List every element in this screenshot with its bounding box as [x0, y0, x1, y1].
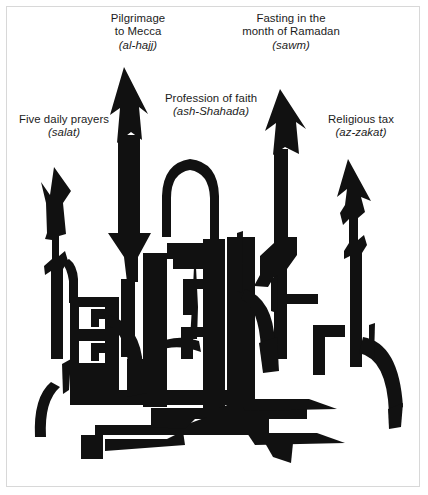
tall-right-minaret [265, 89, 306, 155]
left-minaret-finial [62, 359, 71, 394]
central-dome-outline [162, 159, 219, 239]
tall-left-minaret [110, 67, 148, 143]
mosque-silhouette [7, 7, 419, 486]
right-curved-swoosh [359, 337, 403, 413]
mosque-roof-band [103, 390, 237, 405]
figure-root: Pilgrimage to Mecca (al-hajj) Fasting in… [0, 0, 428, 495]
dome-base-bar [173, 259, 211, 269]
eave-right-tip [265, 443, 293, 463]
right-column-swoosh-tail [259, 337, 279, 373]
tall-right-minaret-spike [271, 275, 278, 313]
mosque-plinth-lower [81, 435, 103, 459]
right-column-spike [237, 231, 243, 293]
tall-right-minaret-balcony [286, 294, 318, 304]
mosque-bracket-right [313, 325, 345, 375]
eave-right-lower [247, 433, 345, 445]
left-minaret [41, 167, 71, 359]
left-block-hook [127, 359, 147, 397]
left-curved-buttress [35, 382, 60, 437]
mosque-upper-cap [167, 243, 203, 259]
right-minaret-thin-spike [369, 323, 375, 359]
